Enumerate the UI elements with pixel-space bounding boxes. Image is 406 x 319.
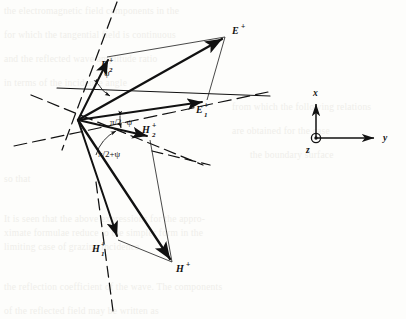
vector-diagram: E + E + 1 E + 2 H + H + 1 H + 2 ψ π/2	[0, 0, 406, 319]
label-H-plus-sup: +	[186, 260, 190, 269]
label-H-one-plus-base: H	[91, 243, 101, 254]
label-E-one-plus: E + 1	[195, 101, 208, 119]
axis-line-through-E1	[14, 92, 268, 146]
label-E-plus-base: E	[231, 25, 239, 36]
axis-line-upper-left	[57, 88, 270, 96]
coordinate-triad: x y z	[305, 88, 388, 155]
vector-E-one-plus	[78, 102, 202, 120]
label-E-plus-sup: +	[241, 22, 245, 31]
label-H-one-plus: H + 1	[91, 240, 105, 258]
vector-H-plus	[78, 120, 170, 259]
angle-label-psi: ψ	[104, 68, 110, 78]
axis-lines-group	[14, 2, 270, 311]
label-H-two-plus-sup: +	[152, 121, 156, 130]
axis-z-label: z	[305, 145, 310, 155]
label-H-two-plus-base: H	[141, 124, 151, 135]
label-H-plus-base: H	[175, 263, 185, 274]
label-E-plus: E +	[231, 22, 245, 36]
angle-label-half-pi-plus-psi: π/2+ψ	[98, 149, 121, 159]
label-H-one-plus-sup: +	[101, 240, 105, 249]
label-E-one-plus-base: E	[195, 104, 203, 115]
axis-line-through-H2	[152, 151, 210, 165]
label-H-two-plus: H + 2	[141, 121, 156, 139]
label-E-two-plus-sup: +	[109, 56, 113, 65]
label-E-one-plus-sub: 1	[204, 111, 208, 119]
angle-label-half-pi-minus-psi: π/2−ψ	[110, 117, 133, 127]
label-H-one-plus-sub: 1	[101, 250, 105, 258]
vector-H-one-plus	[78, 120, 117, 236]
vector-labels-group: E + E + 1 E + 2 H + H + 1 H + 2	[91, 22, 245, 274]
label-H-two-plus-sub: 2	[151, 131, 156, 139]
axis-x-label: x	[312, 88, 318, 98]
label-H-plus: H +	[175, 260, 190, 274]
axis-y-label: y	[382, 133, 388, 143]
label-E-one-plus-sup: +	[204, 101, 208, 110]
